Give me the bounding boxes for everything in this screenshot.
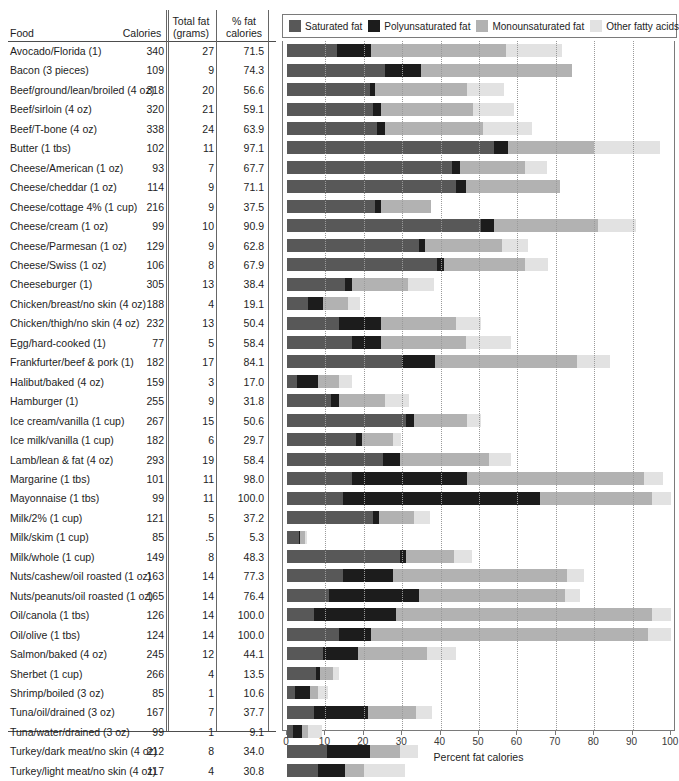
cell-food: Cheeseburger (1) (10, 275, 92, 294)
bar-segment-0 (287, 433, 356, 446)
x-tick-10 (324, 731, 325, 735)
cell-pct-fat: 77.3 (220, 567, 264, 586)
bar-segment-0 (287, 550, 400, 563)
bar-segment-3 (416, 706, 432, 719)
x-tick-label-0: 0 (283, 736, 289, 747)
bar-segment-0 (287, 706, 314, 719)
cell-calories: 216 (120, 198, 164, 217)
cell-pct-fat: 56.6 (220, 81, 264, 100)
stacked-bar (287, 531, 307, 544)
cell-pct-fat: 100.0 (220, 489, 264, 508)
bar-segment-2 (396, 608, 651, 621)
bar-segment-3 (489, 453, 512, 466)
bar-segment-0 (287, 355, 402, 368)
cell-pct-fat: 58.4 (220, 451, 264, 470)
stacked-bar (287, 453, 511, 466)
legend-item-3: Other fatty acids (590, 20, 679, 32)
stacked-bar (287, 589, 580, 602)
cell-calories: 340 (120, 42, 164, 61)
bar-segment-3 (648, 628, 671, 641)
cell-food: Margarine (1 tbs) (10, 470, 90, 489)
bar-segment-3 (385, 394, 409, 407)
bar-segment-3 (466, 336, 512, 349)
bar-segment-3 (652, 608, 671, 621)
bar-segment-2 (381, 336, 465, 349)
cell-calories: 165 (120, 587, 164, 606)
cell-food: Mayonnaise (1 tbs) (10, 489, 99, 508)
cell-calories: 106 (120, 256, 164, 275)
plot-area (282, 41, 675, 731)
bar-segment-1 (383, 453, 400, 466)
cell-calories: 99 (120, 723, 164, 742)
bar-segment-1 (406, 414, 414, 427)
bar-segment-3 (525, 258, 548, 271)
cell-calories: 182 (120, 431, 164, 450)
cell-total-fat: 11 (170, 470, 214, 489)
cell-total-fat: 8 (170, 742, 214, 761)
cell-total-fat: 14 (170, 626, 214, 645)
table-row: Hamburger (1)255931.8 (0, 392, 280, 411)
cell-pct-fat: 37.5 (220, 198, 264, 217)
x-axis: Percent fat calories 0102030405060708090… (282, 731, 675, 766)
table-header: Food Calories Total fat (grams) % fat ca… (8, 10, 276, 40)
bar-segment-2 (352, 278, 408, 291)
stacked-bar (287, 706, 432, 719)
cell-calories: 232 (120, 314, 164, 333)
table-row: Frankfurter/beef & pork (1)1821784.1 (0, 353, 280, 372)
cell-calories: 99 (120, 489, 164, 508)
cell-pct-fat: 71.1 (220, 178, 264, 197)
bar-segment-3 (414, 511, 430, 524)
chart-legend: Saturated fatPolyunsaturated fatMonounsa… (282, 14, 677, 38)
cell-calories: 266 (120, 665, 164, 684)
bar-segment-2 (310, 686, 318, 699)
cell-calories: 109 (120, 61, 164, 80)
bar-segment-3 (348, 297, 360, 310)
bar-segment-1 (339, 628, 372, 641)
table-row: Oil/canola (1 tbs)12614100.0 (0, 606, 280, 625)
bar-segment-3 (393, 433, 401, 446)
cell-pct-fat: 67.9 (220, 256, 264, 275)
x-tick-100 (670, 731, 671, 735)
x-tick-90 (632, 731, 633, 735)
table-row: Bacon (3 pieces)109974.3 (0, 61, 280, 80)
table-row: Beef/sirloin (4 oz)3202159.1 (0, 100, 280, 119)
cell-total-fat: 15 (170, 412, 214, 431)
bar-segment-0 (287, 336, 352, 349)
stacked-bar (287, 83, 504, 96)
cell-food: Cheese/American (1 oz) (10, 159, 123, 178)
cell-calories: 102 (120, 139, 164, 158)
cell-pct-fat: 63.9 (220, 120, 264, 139)
cell-calories: 318 (120, 81, 164, 100)
gridline-70 (556, 41, 557, 730)
cell-food: Avocado/Florida (1) (10, 42, 101, 61)
bar-segment-0 (287, 531, 299, 544)
bar-segment-3 (652, 492, 671, 505)
table-row: Cheese/American (1 oz)93767.7 (0, 159, 280, 178)
cell-food: Hamburger (1) (10, 392, 78, 411)
bar-segment-0 (287, 686, 295, 699)
bar-segment-2 (358, 647, 427, 660)
table-row: Lamb/lean & fat (4 oz)2931958.4 (0, 451, 280, 470)
cell-calories: 93 (120, 159, 164, 178)
table-row: Salmon/baked (4 oz)2451244.1 (0, 645, 280, 664)
cell-total-fat: 1 (170, 723, 214, 742)
gridline-40 (441, 41, 442, 730)
bar-segment-1 (329, 589, 419, 602)
x-axis-title: Percent fat calories (282, 751, 675, 763)
bar-segment-1 (343, 569, 393, 582)
legend-label: Polyunsaturated fat (384, 21, 470, 32)
x-tick-label-70: 70 (549, 736, 560, 747)
legend-label: Other fatty acids (606, 21, 679, 32)
bar-segment-1 (337, 44, 372, 57)
cell-total-fat: 7 (170, 159, 214, 178)
cell-pct-fat: 98.0 (220, 470, 264, 489)
gridline-60 (517, 41, 518, 730)
column-header-pct-fat-line1: % fat (220, 16, 268, 28)
cell-pct-fat: 100.0 (220, 626, 264, 645)
x-tick-label-20: 20 (357, 736, 368, 747)
bar-segment-1 (481, 219, 494, 232)
x-tick-label-100: 100 (662, 736, 679, 747)
cell-calories: 121 (120, 509, 164, 528)
cell-total-fat: 19 (170, 451, 214, 470)
